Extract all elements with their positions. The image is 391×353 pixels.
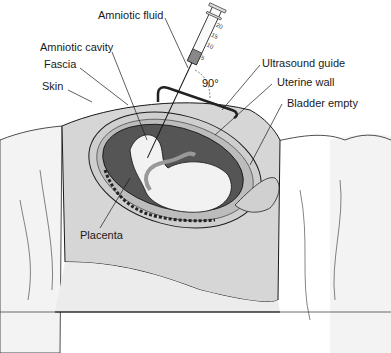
label-placenta: Placenta <box>80 230 123 241</box>
label-bladder-empty: Bladder empty <box>287 98 358 109</box>
label-amniotic-cavity: Amniotic cavity <box>40 42 113 53</box>
svg-text:10: 10 <box>206 42 215 51</box>
label-angle-90: 90° <box>202 78 219 89</box>
label-uterine-wall: Uterine wall <box>277 77 334 88</box>
label-skin: Skin <box>42 81 63 92</box>
label-ultrasound-guide: Ultrasound guide <box>262 58 345 69</box>
label-amniotic-fluid: Amniotic fluid <box>98 10 163 21</box>
svg-text:15: 15 <box>210 32 219 41</box>
label-fascia: Fascia <box>44 59 76 70</box>
svg-text:20: 20 <box>215 22 224 31</box>
